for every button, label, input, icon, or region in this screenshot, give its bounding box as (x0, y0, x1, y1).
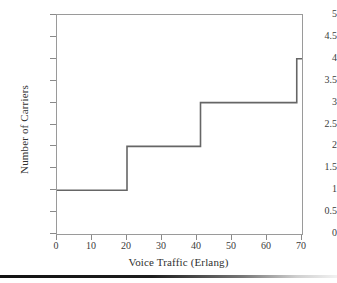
x-tick-label: 10 (76, 240, 106, 251)
chart-figure: 00.511.522.533.544.55 010203040506070 Vo… (0, 0, 337, 283)
carriers-step-polyline (57, 59, 302, 190)
x-tick-label: 50 (216, 240, 246, 251)
x-tick-label: 70 (286, 240, 316, 251)
step-line-series (57, 15, 302, 234)
x-axis-label: Voice Traffic (Erlang) (56, 256, 301, 269)
x-tick-label: 60 (251, 240, 281, 251)
x-tick-label: 0 (41, 240, 71, 251)
x-tick-label: 30 (146, 240, 176, 251)
x-tick-label: 40 (181, 240, 211, 251)
page-bottom-rule (0, 275, 337, 278)
x-tick-label: 20 (111, 240, 141, 251)
y-axis-label: Number of Carriers (18, 60, 31, 200)
plot-area (56, 14, 303, 235)
